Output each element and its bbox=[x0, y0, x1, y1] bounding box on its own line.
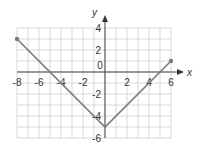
y-tick-label: 2 bbox=[95, 45, 101, 56]
x-axis-arrow-icon bbox=[177, 69, 184, 75]
x-tick-label: 2 bbox=[124, 77, 130, 88]
axes: xy bbox=[17, 7, 193, 138]
x-tick-label: 6 bbox=[168, 77, 174, 88]
x-tick-label: -6 bbox=[35, 77, 44, 88]
y-tick-label: -6 bbox=[92, 133, 101, 144]
y-axis-arrow-icon bbox=[102, 15, 108, 22]
chart: xy -8-6-4-2246042-2-4-6 bbox=[0, 0, 200, 152]
y-axis-label: y bbox=[91, 7, 98, 18]
endpoint-marker bbox=[169, 59, 173, 63]
endpoint-marker bbox=[15, 37, 19, 41]
tick-labels: -8-6-4-2246042-2-4-6 bbox=[13, 23, 175, 144]
x-axis-label: x bbox=[186, 67, 193, 78]
x-tick-label: -2 bbox=[79, 77, 88, 88]
y-tick-label: -2 bbox=[92, 89, 101, 100]
y-tick-label: 4 bbox=[95, 23, 101, 34]
origin-label: 0 bbox=[97, 60, 103, 71]
x-tick-label: -8 bbox=[13, 77, 22, 88]
